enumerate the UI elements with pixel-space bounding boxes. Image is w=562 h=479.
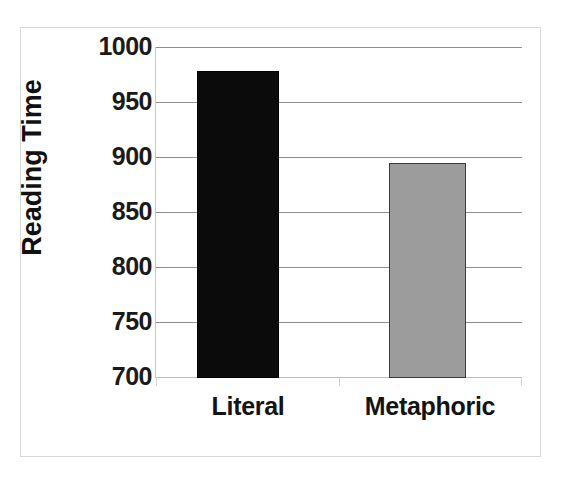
y-tick-1000: 1000 bbox=[60, 34, 152, 59]
y-tick-900: 900 bbox=[60, 144, 152, 169]
y-tick-700: 700 bbox=[60, 364, 152, 389]
plot-area bbox=[156, 47, 522, 377]
y-tick-950: 950 bbox=[60, 89, 152, 114]
y-tick-750: 750 bbox=[60, 309, 152, 334]
gridline-1000 bbox=[156, 47, 522, 48]
x-tick-metaphoric: Metaphoric bbox=[339, 392, 521, 421]
bar-metaphoric[interactable] bbox=[389, 163, 466, 378]
category-separator-right bbox=[521, 377, 522, 386]
figure-canvas: Reading Time 1000 950 900 850 800 750 70… bbox=[0, 0, 562, 479]
x-tick-literal: Literal bbox=[157, 392, 339, 421]
y-tick-850: 850 bbox=[60, 199, 152, 224]
y-axis-tick-labels: 1000 950 900 850 800 750 700 bbox=[56, 47, 152, 377]
bar-literal[interactable] bbox=[197, 71, 279, 378]
category-separator-left bbox=[156, 377, 157, 386]
y-axis-title: Reading Time bbox=[17, 68, 48, 268]
y-tick-800: 800 bbox=[60, 254, 152, 279]
category-separator-mid bbox=[339, 377, 340, 386]
